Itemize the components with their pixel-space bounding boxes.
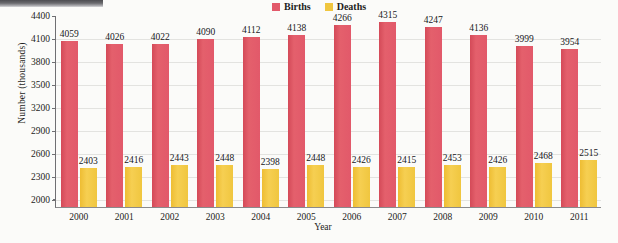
bar-deaths-2006[interactable] — [353, 167, 370, 207]
bar-value-label: 2416 — [124, 155, 143, 165]
x-axis-category-label: 2004 — [251, 212, 270, 222]
bar-value-label: 2448 — [215, 153, 234, 163]
x-axis-category-label: 2007 — [388, 212, 407, 222]
bar-deaths-2000[interactable] — [80, 168, 97, 207]
bar-value-label: 2448 — [306, 153, 325, 163]
bar-value-label: 2403 — [79, 156, 98, 166]
bar-value-label: 2468 — [534, 151, 553, 161]
bar-group: 411223982004 — [238, 16, 284, 207]
bar-deaths-2001[interactable] — [125, 167, 142, 207]
legend-entry-births: Births — [272, 1, 311, 12]
bar-value-label: 4138 — [287, 23, 306, 33]
bar-births-2002[interactable] — [152, 44, 169, 207]
bar-deaths-2007[interactable] — [398, 167, 415, 207]
bar-births-2008[interactable] — [425, 27, 442, 207]
chart-legend: BirthsDeaths — [272, 1, 366, 12]
bar-births-2000[interactable] — [61, 41, 78, 207]
bar-group: 424724532008 — [420, 16, 466, 207]
bar-group: 413624262009 — [466, 16, 512, 207]
bar-births-2009[interactable] — [470, 35, 487, 207]
bar-value-label: 4090 — [196, 27, 215, 37]
bar-deaths-2004[interactable] — [262, 169, 279, 207]
bar-group: 426624262006 — [329, 16, 375, 207]
bar-group: 413824482005 — [284, 16, 330, 207]
bar-deaths-2008[interactable] — [444, 165, 461, 207]
scan-edge-artifact — [0, 0, 103, 7]
legend-swatch-icon — [272, 3, 280, 11]
bar-value-label: 4315 — [378, 10, 397, 20]
y-axis-tick-label: 4100 — [31, 34, 50, 44]
bar-value-label: 2415 — [397, 155, 416, 165]
y-axis-tick-label: 2300 — [31, 172, 50, 182]
bar-value-label: 4026 — [105, 32, 124, 42]
bar-deaths-2011[interactable] — [580, 160, 597, 207]
bar-deaths-2002[interactable] — [171, 165, 188, 207]
bar-births-2007[interactable] — [379, 22, 396, 207]
bar-births-2011[interactable] — [561, 49, 578, 207]
y-axis-title: Number (thousands) — [17, 13, 27, 153]
bar-group: 431524152007 — [375, 16, 421, 207]
y-axis-tick-label: 2900 — [31, 126, 50, 136]
y-axis-tick-label: 3200 — [31, 103, 50, 113]
bar-deaths-2009[interactable] — [489, 167, 506, 207]
x-axis-category-label: 2006 — [342, 212, 361, 222]
bar-births-2006[interactable] — [334, 25, 351, 207]
bar-value-label: 2443 — [170, 153, 189, 163]
y-axis-tick-label: 3800 — [31, 57, 50, 67]
bar-deaths-2005[interactable] — [307, 165, 324, 207]
bar-value-label: 2453 — [443, 153, 462, 163]
bar-value-label: 4247 — [424, 15, 443, 25]
x-axis-category-label: 2005 — [297, 212, 316, 222]
legend-label: Deaths — [337, 1, 366, 12]
bar-deaths-2010[interactable] — [535, 163, 552, 207]
x-axis-category-label: 2001 — [115, 212, 134, 222]
x-axis-category-label: 2011 — [570, 212, 589, 222]
bar-group: 395425152011 — [557, 16, 603, 207]
bar-value-label: 2398 — [261, 157, 280, 167]
bar-births-2010[interactable] — [516, 46, 533, 207]
bar-group: 402624162001 — [102, 16, 148, 207]
bar-group: 402224432002 — [147, 16, 193, 207]
bar-value-label: 4059 — [60, 29, 79, 39]
bar-value-label: 2426 — [488, 155, 507, 165]
legend-label: Births — [284, 1, 311, 12]
y-axis-tick-label: 2000 — [31, 195, 50, 205]
bar-value-label: 3999 — [515, 34, 534, 44]
chart-screenshot: Number (thousands) Year BirthsDeaths 200… — [0, 0, 618, 243]
x-axis-category-label: 2009 — [479, 212, 498, 222]
bar-births-2001[interactable] — [106, 44, 123, 207]
x-axis-category-label: 2008 — [433, 212, 452, 222]
y-axis-tick-label: 2600 — [31, 149, 50, 159]
bar-value-label: 4112 — [242, 25, 261, 35]
x-axis-category-label: 2002 — [160, 212, 179, 222]
plot-area: 2000230026002900320035003800410044004059… — [55, 16, 601, 208]
bar-group: 405924032000 — [56, 16, 102, 207]
bar-births-2005[interactable] — [288, 35, 305, 207]
bar-deaths-2003[interactable] — [216, 165, 233, 207]
legend-entry-deaths: Deaths — [325, 1, 366, 12]
bar-value-label: 4022 — [151, 32, 170, 42]
bar-value-label: 4266 — [333, 13, 352, 23]
bar-value-label: 4136 — [469, 23, 488, 33]
bar-group: 399924682010 — [511, 16, 557, 207]
x-axis-category-label: 2010 — [524, 212, 543, 222]
bar-births-2004[interactable] — [243, 37, 260, 207]
x-axis-category-label: 2003 — [206, 212, 225, 222]
bar-births-2003[interactable] — [197, 39, 214, 207]
y-axis-tick-label: 4400 — [31, 11, 50, 21]
legend-swatch-icon — [325, 3, 333, 11]
bar-value-label: 2426 — [352, 155, 371, 165]
x-axis-title: Year — [0, 222, 618, 232]
y-axis-tick-label: 3500 — [31, 80, 50, 90]
bar-value-label: 3954 — [560, 37, 579, 47]
bar-group: 409024482003 — [193, 16, 239, 207]
x-axis-category-label: 2000 — [69, 212, 88, 222]
bar-value-label: 2515 — [579, 148, 598, 158]
